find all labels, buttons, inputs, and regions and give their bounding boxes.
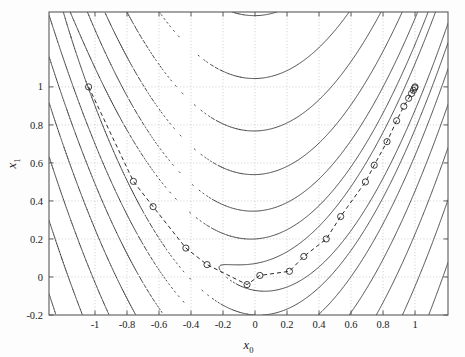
x-tick-label: 0.4 xyxy=(312,319,326,330)
contour-line xyxy=(122,204,123,205)
contour-line xyxy=(72,287,73,289)
contour-line xyxy=(70,219,71,221)
contour-line xyxy=(154,172,155,173)
contour-line xyxy=(113,270,114,271)
contour-line xyxy=(123,208,124,209)
contour-line xyxy=(86,122,87,124)
contour-line xyxy=(158,236,159,237)
contour-line xyxy=(155,264,156,265)
x-axis-label-subscript: 0 xyxy=(249,345,253,355)
contour-line xyxy=(123,206,124,207)
contour-line xyxy=(92,23,93,25)
contour-line xyxy=(135,313,136,314)
x-tick-label: 0.6 xyxy=(344,319,357,330)
contour-line xyxy=(98,113,99,115)
contour-line xyxy=(155,103,156,104)
contour-line xyxy=(137,233,138,234)
contour-line xyxy=(141,119,142,120)
contour-line xyxy=(158,145,159,146)
plot-background xyxy=(49,12,448,315)
contour-line xyxy=(102,160,103,161)
contour-line xyxy=(136,231,137,232)
contour-line xyxy=(93,179,94,180)
contour-line xyxy=(106,55,107,56)
contour-line xyxy=(96,146,97,148)
contour-line xyxy=(115,154,116,155)
contour-line xyxy=(141,280,142,281)
contour-line xyxy=(211,161,212,162)
contour-line xyxy=(143,212,144,213)
contour-line xyxy=(142,38,143,39)
contour-line xyxy=(89,130,90,132)
contour-line xyxy=(61,138,62,140)
contour-line xyxy=(90,271,91,272)
contour-line xyxy=(154,57,155,58)
contour-line xyxy=(103,300,104,301)
contour-line xyxy=(213,229,214,230)
contour-line xyxy=(120,284,121,285)
contour-line xyxy=(127,96,128,97)
contour-line xyxy=(100,40,101,41)
contour-line xyxy=(152,259,153,260)
contour-line xyxy=(102,82,103,83)
contour-line xyxy=(230,280,231,281)
contour-line xyxy=(213,119,214,120)
contour-line xyxy=(218,202,219,203)
contour-line xyxy=(222,204,223,205)
contour-line xyxy=(143,85,144,86)
contour-line xyxy=(118,235,119,236)
contour-line xyxy=(97,34,98,35)
y-tick-label: 0 xyxy=(38,272,43,283)
contour-line xyxy=(142,210,143,211)
contour-line xyxy=(95,106,96,108)
contour-line xyxy=(83,252,84,254)
contour-line xyxy=(203,193,204,194)
contour-line xyxy=(94,28,95,29)
contour-line xyxy=(91,96,92,98)
y-tick-label: 0.8 xyxy=(30,120,43,131)
x-tick-label: -0.6 xyxy=(151,319,168,330)
contour-line xyxy=(85,80,86,82)
contour-line xyxy=(126,179,127,180)
contour-line xyxy=(229,308,230,309)
contour-line xyxy=(112,28,113,29)
contour-line xyxy=(157,106,158,107)
contour-line xyxy=(209,226,210,227)
contour-line xyxy=(135,143,136,144)
contour-line xyxy=(108,313,109,314)
contour-line xyxy=(217,231,218,232)
contour-line xyxy=(105,253,106,254)
contour-line xyxy=(164,246,165,247)
contour-line xyxy=(126,95,127,96)
contour-line xyxy=(98,151,99,153)
contour-line xyxy=(94,141,95,142)
contour-line xyxy=(94,280,95,282)
contour-line xyxy=(142,155,143,156)
y-axis-label-subscript: 1 xyxy=(12,159,22,163)
contour-line xyxy=(85,47,86,48)
contour-line xyxy=(115,73,116,74)
contour-line xyxy=(105,307,106,308)
contour-line xyxy=(107,57,108,58)
contour-line xyxy=(95,184,96,185)
contour-line xyxy=(77,300,78,302)
contour-line xyxy=(138,148,139,149)
contour-line xyxy=(112,67,113,68)
contour-line xyxy=(88,53,89,54)
contour-line xyxy=(133,140,134,141)
x-axis-label: x0 xyxy=(243,338,254,355)
contour-line xyxy=(109,177,110,178)
contour-line xyxy=(118,280,119,281)
contour-line xyxy=(109,262,110,263)
contour-plot-svg: -1-0.8-0.6-0.4-0.200.20.40.60.81-0.200.2… xyxy=(0,0,465,357)
contour-line xyxy=(141,242,142,243)
contour-line xyxy=(143,282,144,283)
y-tick-label: 1 xyxy=(38,81,43,92)
contour-line xyxy=(156,60,157,61)
contour-line xyxy=(208,295,209,296)
contour-line xyxy=(119,237,120,238)
contour-line xyxy=(97,188,98,189)
contour-line xyxy=(77,28,78,29)
contour-line xyxy=(101,242,102,243)
contour-line xyxy=(145,287,146,288)
